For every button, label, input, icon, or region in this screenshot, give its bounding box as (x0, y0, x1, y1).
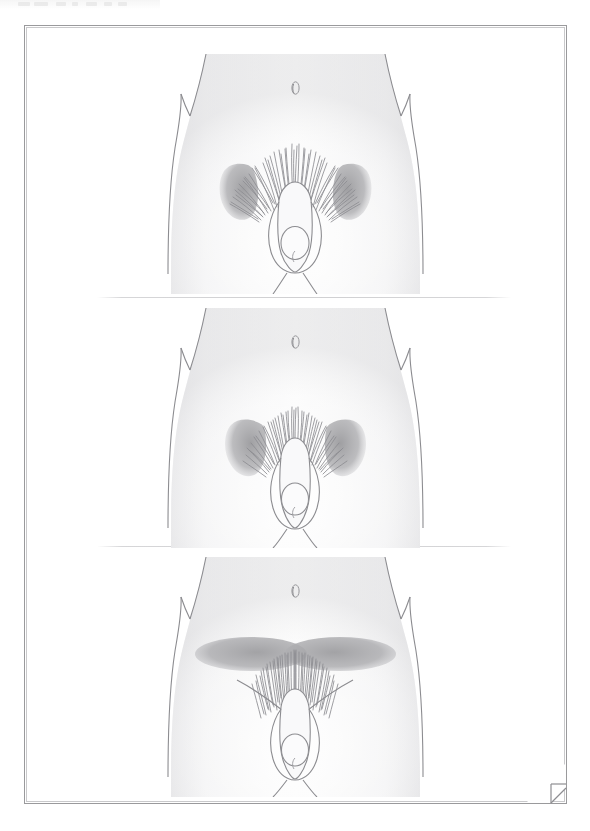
toolbar-strip (0, 0, 160, 9)
document-page (24, 25, 567, 804)
illustration-panel-1 (25, 44, 566, 294)
illustration-panel-2 (25, 298, 566, 548)
panel-1-figure (25, 44, 566, 294)
toolbar-segment-1 (18, 2, 30, 6)
panel-3-figure (25, 547, 566, 797)
toolbar-segment-3 (56, 2, 66, 6)
toolbar-segment-4 (72, 2, 78, 6)
page-corner-fold-icon (525, 762, 567, 804)
shaded-zone-right (284, 637, 396, 671)
panel-2-figure (25, 298, 566, 548)
toolbar-segment-6 (104, 2, 112, 6)
illustration-panel-3 (25, 547, 566, 797)
toolbar-segment-2 (34, 2, 48, 6)
toolbar-segment-7 (118, 2, 127, 6)
toolbar-segment-5 (86, 2, 97, 6)
